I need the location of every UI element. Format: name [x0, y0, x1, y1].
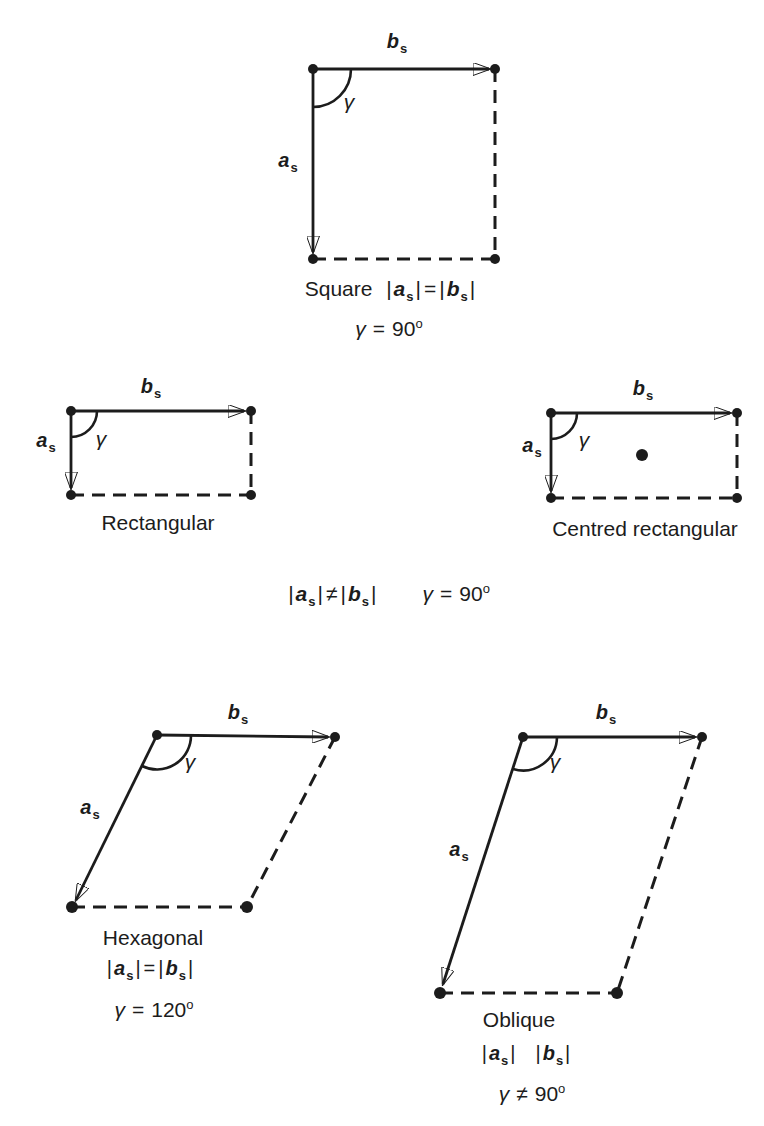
vector-a-subscript: s [290, 160, 297, 175]
lattice-point-bottom-left [546, 493, 556, 503]
vector-b-label: bs [141, 376, 161, 400]
norm-bar: | [107, 957, 112, 979]
vector-a-letter: a [489, 1042, 500, 1064]
degree-mark: o [415, 316, 422, 331]
vector-b-subscript: s [179, 968, 186, 983]
vector-b-subscript: s [609, 712, 616, 727]
norm-relation: = [424, 277, 436, 300]
vector-a-subscript: s [501, 1053, 508, 1068]
lattice-point-bottom-right [241, 901, 253, 913]
oblique-name: Oblique [483, 1008, 555, 1031]
vector-b-label: bs [387, 31, 407, 55]
norm-bar: | [565, 1042, 570, 1064]
oblique-gamma-caption: γ≠90o [499, 1082, 566, 1106]
rectangular-caption: Rectangular [101, 511, 214, 535]
norm-bar: | [535, 1042, 540, 1064]
vector-b-arrow [157, 735, 328, 737]
vector-b-letter: b [228, 701, 240, 723]
vector-a-label: as [278, 150, 297, 174]
gamma-relation: ≠ [516, 1082, 528, 1105]
bravais-lattices-figure: bs as γ Square |as|=|bs| γ=90o [0, 0, 764, 1126]
norm-bar: | [158, 957, 163, 979]
lattice-point-bottom-right [732, 493, 742, 503]
vector-a-letter: a [80, 796, 91, 818]
centred-rectangular-name: Centred rectangular [552, 517, 738, 540]
gamma-label: γ [96, 428, 107, 449]
vector-b-letter: b [596, 701, 608, 723]
gamma-angle-arc [71, 411, 97, 437]
lattice-point-bottom-right [246, 490, 256, 500]
centred-rectangular-caption: Centred rectangular [552, 517, 738, 541]
vector-b-letter: b [348, 582, 361, 605]
square-lattice-svg [258, 28, 548, 273]
vector-b-label: bs [633, 378, 653, 402]
lattice-point-bottom-left [308, 254, 318, 264]
degree-mark: o [186, 997, 193, 1012]
vector-a-subscript: s [126, 968, 133, 983]
norm-relation: = [144, 957, 156, 979]
vector-b-letter: b [141, 375, 153, 397]
norm-bar: | [439, 277, 444, 300]
rectangular-name: Rectangular [101, 511, 214, 534]
gamma-value: 90 [459, 582, 482, 605]
hexagonal-gamma-caption: γ=120o [114, 998, 193, 1022]
lattice-point-bottom-left [434, 987, 446, 999]
dashed-edge-right [247, 737, 335, 907]
gamma-value: 90 [392, 317, 415, 340]
norm-bar: | [341, 582, 346, 605]
gamma-symbol: γ [423, 582, 434, 605]
vector-b-subscript: s [556, 1053, 563, 1068]
lattice-point-bottom-right [611, 987, 623, 999]
hexagonal-lattice-diagram: bs as γ Hexagonal |as|=|bs| γ=120o [40, 690, 360, 1035]
square-lattice-diagram: bs as γ Square |as|=|bs| γ=90o [258, 28, 548, 343]
lattice-point-top-left [152, 730, 162, 740]
lattice-point-bottom-left [66, 901, 78, 913]
vector-b-letter: b [387, 30, 399, 52]
lattice-point-bottom-right [490, 254, 500, 264]
gamma-label: γ [344, 91, 355, 112]
vector-b-label: bs [596, 702, 616, 726]
lattice-point-top-left [308, 64, 318, 74]
lattice-point-top-left [518, 732, 528, 742]
lattice-point-top-right [697, 732, 707, 742]
vector-b-label: bs [228, 702, 248, 726]
gamma-relation: = [132, 998, 144, 1021]
lattice-point-centre [636, 449, 648, 461]
vector-b-subscript: s [461, 289, 468, 304]
norm-bar: | [288, 582, 293, 605]
vector-a-subscript: s [92, 807, 99, 822]
gamma-label: γ [579, 429, 590, 450]
hexagonal-caption: Hexagonal [103, 926, 203, 950]
gamma-symbol: γ [114, 998, 125, 1021]
norm-bar: | [510, 1042, 515, 1064]
gamma-symbol: γ [355, 317, 366, 340]
square-gamma-caption: γ=90o [355, 317, 422, 341]
vector-a-subscript: s [534, 445, 541, 460]
vector-a-label: as [522, 435, 541, 459]
square-caption: Square |as|=|bs| [305, 277, 478, 305]
vector-b-subscript: s [154, 386, 161, 401]
vector-a-subscript: s [308, 594, 315, 609]
rectangular-shared-caption: |as|≠|bs| γ=90o [286, 582, 490, 609]
norm-bar: | [470, 277, 475, 300]
lattice-point-top-right [490, 64, 500, 74]
vector-a-letter: a [278, 149, 289, 171]
norm-bar: | [416, 277, 421, 300]
vector-a-letter: a [114, 957, 125, 979]
lattice-point-top-left [66, 406, 76, 416]
vector-b-letter: b [633, 377, 645, 399]
vector-a-letter: a [449, 838, 460, 860]
dashed-edge-right [617, 737, 702, 993]
gamma-value: 90 [535, 1082, 558, 1105]
vector-a-letter: a [36, 429, 47, 451]
lattice-point-top-left [546, 408, 556, 418]
gamma-symbol: γ [499, 1082, 510, 1105]
vector-a-label: as [36, 430, 55, 454]
norm-relation: ≠ [326, 582, 338, 605]
rectangular-lattice-diagram: bs as γ Rectangular [30, 375, 280, 540]
vector-a-subscript: s [461, 849, 468, 864]
vector-b-subscript: s [646, 388, 653, 403]
gamma-label: γ [185, 751, 196, 772]
hexagonal-norm-caption: |as|=|bs| [105, 957, 195, 984]
lattice-point-top-right [732, 408, 742, 418]
